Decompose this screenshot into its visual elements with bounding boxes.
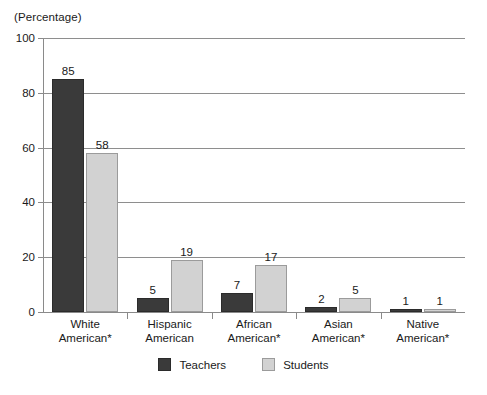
y-tick-mark-80 [38, 93, 43, 94]
legend-entry-teachers: Teachers [158, 358, 226, 371]
category-label-line-1: Asian [312, 318, 365, 332]
chart-legend: TeachersStudents [0, 358, 487, 371]
bar-teachers-group-4: 2 [305, 307, 337, 312]
y-tick-mark-60 [38, 148, 43, 149]
bar-value-label: 5 [149, 284, 155, 296]
group-separator-tick-3 [212, 312, 213, 319]
bar-value-label: 7 [234, 279, 240, 291]
bar-value-label: 58 [96, 139, 109, 151]
y-tick-label-80: 80 [22, 87, 35, 99]
category-label-3: AfricanAmerican* [227, 318, 280, 345]
category-label-4: AsianAmerican* [312, 318, 365, 345]
group-separator-tick-5 [381, 312, 382, 319]
y-tick-label-60: 60 [22, 142, 35, 154]
category-label-line-1: White [59, 318, 112, 332]
category-label-line-1: African [227, 318, 280, 332]
bar-value-label: 85 [62, 65, 75, 77]
category-label-2: HispanicAmerican [145, 318, 194, 345]
legend-label-teachers: Teachers [179, 359, 226, 371]
legend-swatch-students [262, 358, 275, 371]
y-tick-label-20: 20 [22, 251, 35, 263]
bar-value-label: 17 [265, 251, 278, 263]
category-label-line-2: American [145, 332, 194, 346]
category-label-line-2: American* [227, 332, 280, 346]
category-label-line-2: American* [59, 332, 112, 346]
group-separator-tick-4 [296, 312, 297, 319]
category-label-line-2: American* [396, 332, 449, 346]
category-label-line-1: Native [396, 318, 449, 332]
y-axis-line [43, 38, 44, 312]
plot-area: 100806040200 85585197172511 [43, 38, 465, 312]
group-separator-tick-2 [127, 312, 128, 319]
bar-teachers-group-3: 7 [221, 293, 253, 312]
y-tick-label-100: 100 [16, 32, 35, 44]
bar-value-label: 2 [318, 293, 324, 305]
bar-students-group-2: 19 [171, 260, 203, 312]
bar-value-label: 1 [403, 295, 409, 307]
category-label-line-1: Hispanic [145, 318, 194, 332]
y-tick-label-40: 40 [22, 196, 35, 208]
legend-swatch-teachers [158, 358, 171, 371]
y-tick-mark-100 [38, 38, 43, 39]
legend-entry-students: Students [262, 358, 328, 371]
y-tick-mark-0 [38, 312, 43, 313]
y-tick-mark-20 [38, 257, 43, 258]
bar-students-group-4: 5 [339, 298, 371, 312]
bar-teachers-group-5: 1 [390, 309, 422, 312]
bar-students-group-1: 58 [86, 153, 118, 312]
x-axis-line [43, 312, 465, 313]
y-tick-mark-40 [38, 202, 43, 203]
bar-teachers-group-1: 85 [52, 79, 84, 312]
bar-teachers-group-2: 5 [137, 298, 169, 312]
bar-chart-figure: (Percentage) 100806040200 85585197172511… [0, 0, 487, 395]
category-label-1: WhiteAmerican* [59, 318, 112, 345]
legend-label-students: Students [283, 359, 328, 371]
bar-value-label: 5 [352, 284, 358, 296]
category-label-5: NativeAmerican* [396, 318, 449, 345]
bar-students-group-3: 17 [255, 265, 287, 312]
y-tick-label-0: 0 [29, 306, 35, 318]
gridline-80 [43, 93, 465, 94]
percentage-axis-unit-label: (Percentage) [14, 11, 82, 23]
bar-students-group-5: 1 [424, 309, 456, 312]
gridline-100 [43, 38, 465, 39]
category-label-line-2: American* [312, 332, 365, 346]
bar-value-label: 1 [437, 295, 443, 307]
bar-value-label: 19 [180, 246, 193, 258]
